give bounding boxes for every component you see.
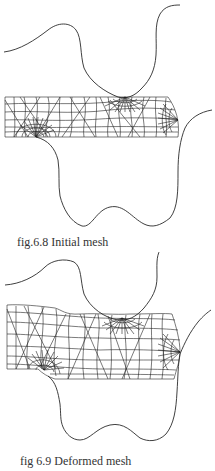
workpiece-mesh [5,97,179,137]
upper-die-outline [5,252,160,320]
figure-caption-deformed: fig 6.9 Deformed mesh [20,454,131,469]
upper-die-outline [4,5,180,98]
lower-die-outline [48,310,211,441]
deformed-mesh-diagram [0,252,215,471]
initial-mesh-diagram [0,0,215,250]
refined-zone-bottom-left [28,350,64,374]
workpiece-mesh [7,305,180,379]
figure-caption-initial: fig.6.8 Initial mesh [17,235,108,250]
refined-zone-right [158,104,178,135]
figure-deformed-mesh: fig 6.9 Deformed mesh [0,252,215,471]
figure-initial-mesh: fig.6.8 Initial mesh [0,0,215,250]
refined-zone-top [102,318,144,334]
